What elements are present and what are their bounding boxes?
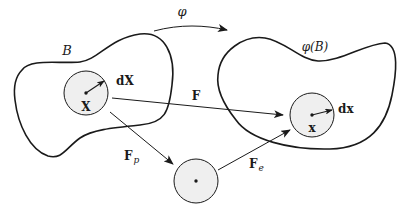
mapping-label: φ — [177, 4, 187, 19]
reference-vector-label: dX — [116, 74, 134, 88]
mapping-arrow — [154, 26, 227, 31]
deformation-diagram: φ B φ(B) X dX x dx F Fp Fe — [0, 0, 403, 216]
elastic-part-label: Fe — [249, 157, 264, 173]
current-point-label: x — [308, 121, 316, 135]
plastic-part-arrow — [110, 112, 173, 164]
current-body-label: φ(B) — [302, 40, 329, 54]
intermediate-point — [194, 179, 197, 182]
reference-point-label: X — [81, 100, 91, 114]
reference-body-label: B — [61, 43, 72, 58]
deformation-gradient-label: F — [192, 89, 201, 103]
current-vector-label: dx — [338, 102, 354, 116]
plastic-part-label: Fp — [124, 149, 140, 165]
